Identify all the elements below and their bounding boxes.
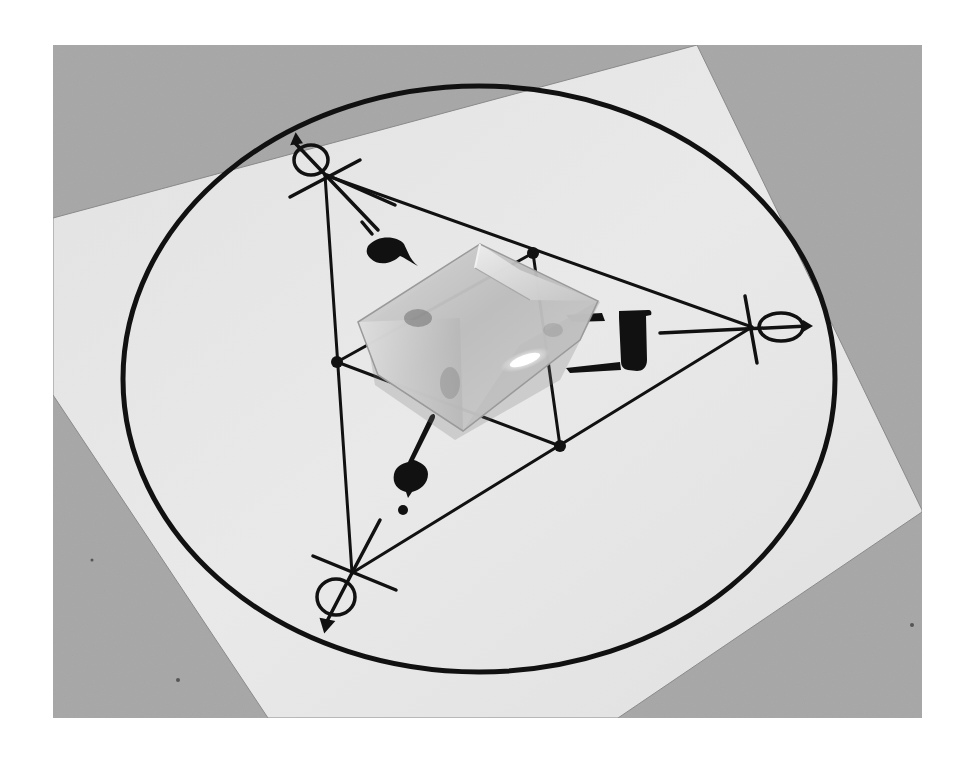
- node-dot-icon: [527, 247, 539, 259]
- photograph: [53, 45, 922, 718]
- node-dot-icon: [331, 356, 343, 368]
- node-dot-icon: [554, 440, 566, 452]
- sigil-photo-canvas: [53, 45, 922, 718]
